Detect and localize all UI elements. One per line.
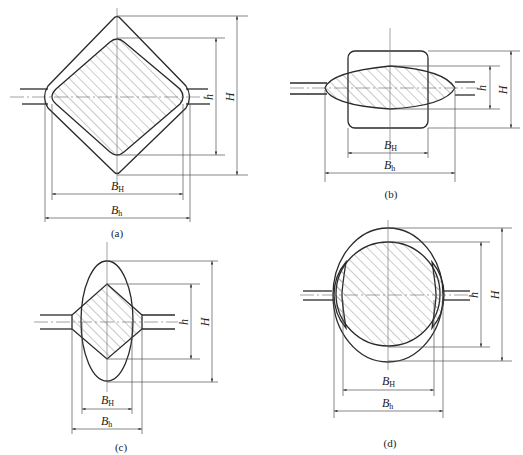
panel-d: h H BH Bh (d): [300, 220, 512, 450]
panel-a: h H BH Bh (a): [10, 8, 248, 240]
caption-b: (b): [385, 188, 398, 201]
label-BH: BH: [101, 393, 114, 408]
label-h: h: [467, 292, 481, 298]
label-h: h: [202, 94, 216, 100]
label-Bh: Bh: [101, 414, 112, 429]
label-H: H: [496, 84, 510, 95]
label-H: H: [488, 289, 502, 300]
label-h: h: [177, 319, 191, 325]
label-h: h: [475, 85, 489, 91]
caption-a: (a): [111, 227, 124, 240]
label-BH: BH: [384, 138, 397, 153]
groove-diagram: h H BH Bh (a) h H BH Bh: [0, 0, 523, 455]
label-H: H: [223, 91, 237, 102]
label-Bh: Bh: [111, 203, 122, 218]
label-Bh: Bh: [384, 158, 395, 173]
caption-d: (d): [384, 437, 397, 450]
label-BH: BH: [382, 374, 395, 389]
label-BH: BH: [111, 179, 124, 194]
caption-c: (c): [115, 441, 128, 454]
label-Bh: Bh: [382, 396, 393, 411]
label-H: H: [198, 316, 212, 327]
panel-c: h H BH Bh (c): [34, 242, 218, 454]
panel-b: h H BH Bh (b): [290, 28, 520, 201]
